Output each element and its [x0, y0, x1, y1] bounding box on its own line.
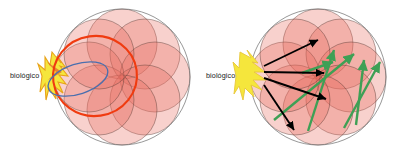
- petal-circle: [260, 19, 330, 89]
- panel-right: biológico: [196, 0, 393, 153]
- biologico-label-left: biológico: [10, 71, 39, 80]
- petal-circle: [64, 19, 134, 89]
- diagram-figure: biológico: [0, 0, 393, 153]
- panel-right-canvas: biológico: [196, 0, 393, 153]
- biologico-label-right: biológico: [206, 71, 235, 80]
- rosette-petals-left: [54, 9, 190, 145]
- rosette-petals-right: [250, 9, 386, 145]
- panel-left: biológico: [0, 0, 197, 153]
- black-arrow-2: [264, 72, 324, 73]
- panel-left-canvas: biológico: [0, 0, 197, 153]
